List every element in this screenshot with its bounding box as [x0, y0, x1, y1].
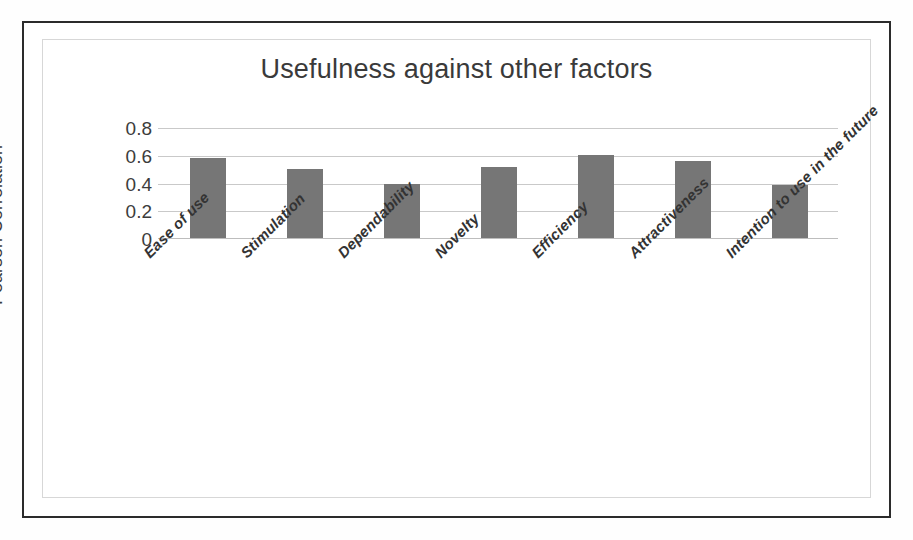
y-tick-label: 0.6	[98, 146, 152, 165]
chart-title: Usefulness against other factors	[42, 54, 871, 85]
bar-novelty	[481, 167, 517, 238]
bar-series	[158, 128, 838, 239]
x-axis-category-labels: Ease of use Stimulation Dependability No…	[158, 239, 838, 439]
y-tick-label: 0.2	[98, 202, 152, 221]
scanned-page: Usefulness against other factors Pearson…	[0, 0, 913, 540]
y-tick-label: 0.4	[98, 174, 152, 193]
bar-efficiency	[578, 155, 614, 238]
y-axis-tick-labels: 0.8 0.6 0.4 0.2 0	[96, 128, 152, 239]
y-axis-title: Pearson Correlation	[0, 110, 8, 340]
y-tick-label: 0.8	[98, 119, 152, 138]
